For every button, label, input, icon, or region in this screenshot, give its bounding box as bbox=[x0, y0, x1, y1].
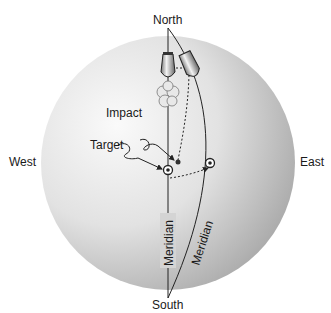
south-label: South bbox=[152, 298, 183, 312]
north-label: North bbox=[153, 13, 182, 27]
target-label: Target bbox=[90, 138, 123, 152]
impact-label: Impact bbox=[106, 106, 142, 120]
east-label: East bbox=[300, 155, 324, 169]
west-label: West bbox=[9, 155, 36, 169]
impact-point bbox=[176, 160, 181, 165]
target-marker-icon bbox=[164, 166, 173, 175]
globe-diagram: Meridian Meridian bbox=[0, 0, 331, 313]
shell-icon bbox=[161, 52, 175, 77]
svg-text:Meridian: Meridian bbox=[162, 220, 176, 266]
meridian-label-straight: Meridian bbox=[160, 213, 176, 268]
moved-target-marker-icon bbox=[206, 159, 215, 168]
